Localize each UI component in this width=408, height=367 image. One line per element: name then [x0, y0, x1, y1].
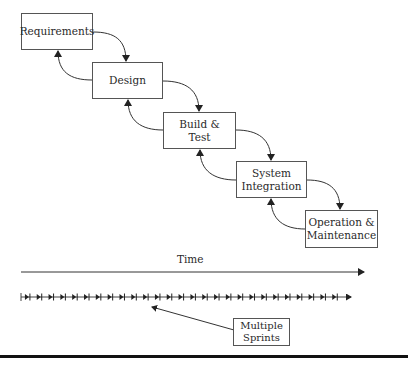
sprint-marker-icon — [131, 294, 135, 300]
feedback-arrow-build-to-design — [128, 100, 163, 130]
sprint-marker-icon — [285, 294, 289, 300]
sprint-marker-icon — [143, 294, 147, 300]
phase-operation-maintenance: Operation & Maintenance — [305, 210, 378, 248]
flow-arrow-requirements-to-design — [93, 32, 126, 61]
connector-layer — [0, 0, 408, 367]
sprint-marker-icon — [226, 294, 230, 300]
sprint-marker-icon — [309, 294, 313, 300]
phase-build-test: Build & Test — [163, 112, 236, 149]
phase-label: Build & Test — [179, 118, 220, 144]
sprint-marker-icon — [60, 294, 64, 300]
phase-label: System Integration — [241, 167, 301, 193]
phase-requirements: Requirements — [21, 13, 93, 50]
sprint-marker-icon — [119, 294, 123, 300]
phase-design: Design — [92, 62, 163, 99]
sprint-marker-icon — [297, 294, 301, 300]
phase-label: Requirements — [20, 25, 95, 38]
sprint-marker-icon — [25, 294, 29, 300]
sprint-marker-icon — [37, 294, 41, 300]
sprint-marker-icon — [167, 294, 171, 300]
sprint-marker-icon — [190, 294, 194, 300]
time-axis-label: Time — [177, 253, 204, 265]
sprint-marker-icon — [72, 294, 76, 300]
multiple-sprints-callout: Multiple Sprints — [233, 318, 290, 346]
feedback-arrow-integration-to-build — [200, 150, 236, 180]
sprint-marker-icon — [96, 294, 100, 300]
sprint-marker-icon — [320, 294, 324, 300]
phase-label: Design — [109, 74, 146, 87]
sprint-marker-icon — [214, 294, 218, 300]
waterfall-agile-diagram: Requirements Design Build & Test System … — [0, 0, 408, 367]
flow-arrow-build-to-integration — [236, 130, 271, 160]
sprint-marker-icon — [179, 294, 183, 300]
callout-arrow — [152, 307, 234, 330]
flow-arrow-design-to-build — [163, 81, 199, 111]
flow-arrow-integration-to-operation — [307, 180, 340, 209]
sprint-marker-icon — [49, 294, 53, 300]
feedback-arrow-operation-to-integration — [271, 199, 305, 229]
sprint-marker-icon — [332, 294, 336, 300]
sprint-marker-icon — [84, 294, 88, 300]
phase-label: Operation & Maintenance — [307, 216, 376, 242]
sprint-marker-icon — [238, 294, 242, 300]
sprint-marker-icon — [155, 294, 159, 300]
callout-label: Multiple Sprints — [240, 320, 283, 344]
phase-system-integration: System Integration — [236, 161, 307, 198]
bottom-rule-divider — [0, 355, 408, 358]
sprint-marker-icon — [250, 294, 254, 300]
sprint-marker-icon — [261, 294, 265, 300]
sprint-marker-icon — [108, 294, 112, 300]
sprint-marker-icon — [273, 294, 277, 300]
sprint-marker-icon — [202, 294, 206, 300]
feedback-arrow-design-to-requirements — [58, 51, 92, 80]
